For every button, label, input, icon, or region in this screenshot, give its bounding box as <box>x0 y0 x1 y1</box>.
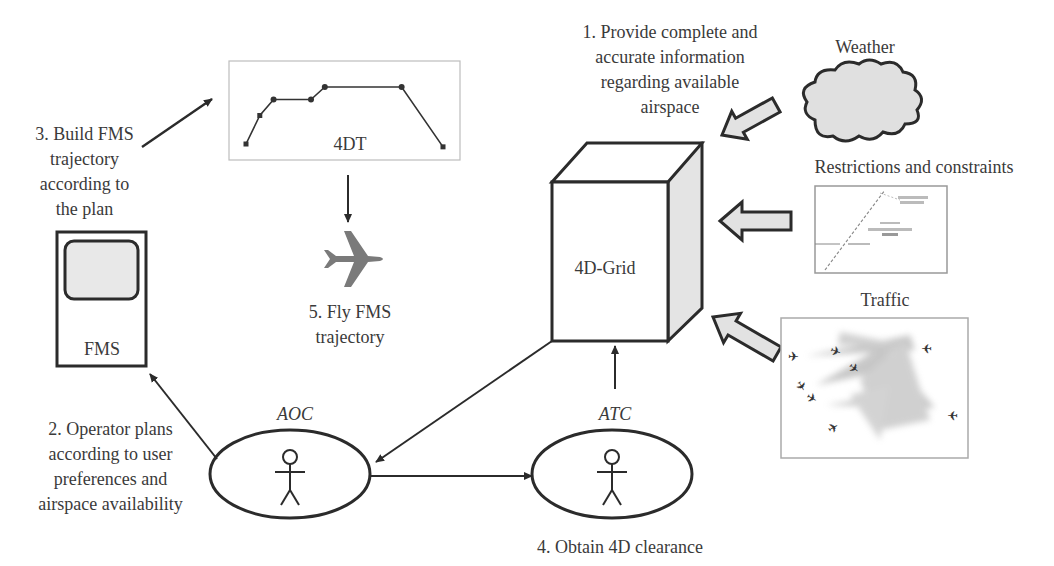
traffic-label: Traffic <box>840 288 930 313</box>
step3-label: 3. Build FMS trajectory according to the… <box>22 122 147 222</box>
trajectory-point <box>257 113 262 118</box>
trajectory-point <box>244 142 249 147</box>
step1-label: 1. Provide complete and accurate informa… <box>555 20 785 120</box>
traffic-map-icon: ✈ ✈ ✈ ✈ ✈ ✈ ✈ ✈ <box>781 318 968 458</box>
trajectory-point <box>441 144 446 149</box>
fms-screen <box>65 241 138 299</box>
restrictions-input-arrow <box>720 202 791 240</box>
traffic-input-arrow <box>705 302 786 368</box>
atc-label: ATC <box>585 402 645 427</box>
svg-text:✈: ✈ <box>921 341 932 356</box>
trajectory-label: 4DT <box>320 132 380 157</box>
svg-text:✈: ✈ <box>788 349 799 364</box>
trajectory-point <box>399 84 405 90</box>
grid-label: 4D-Grid <box>555 256 655 281</box>
restrictions-label: Restrictions and constraints <box>784 155 1044 180</box>
weather-label: Weather <box>820 35 910 60</box>
trajectory-point <box>308 97 314 103</box>
step2-label: 2. Operator plans according to user pref… <box>18 417 203 517</box>
grid-cube <box>552 143 702 341</box>
trajectory-point <box>322 84 328 90</box>
restrictions-chart-icon <box>815 186 947 273</box>
arrow-grid-to-aoc <box>376 341 552 462</box>
svg-text:✈: ✈ <box>947 408 958 423</box>
cloud-icon <box>803 60 921 141</box>
trajectory-point <box>271 97 277 103</box>
airplane-icon <box>324 231 383 287</box>
step5-label: 5. Fly FMS trajectory <box>280 300 420 350</box>
arrow-build-trajectory <box>142 99 212 147</box>
step4-label: 4. Obtain 4D clearance <box>520 535 720 560</box>
aoc-label: AOC <box>265 402 325 427</box>
fms-label: FMS <box>60 337 144 362</box>
